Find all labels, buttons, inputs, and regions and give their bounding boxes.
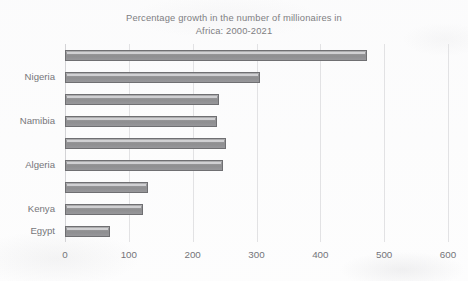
bar-row	[65, 88, 448, 110]
y-axis-tick-label: Nigeria	[25, 71, 55, 82]
bar	[65, 182, 148, 193]
y-axis-tick-label: Algeria	[25, 159, 55, 170]
bar-row	[65, 176, 448, 198]
x-axis-tick-label: 500	[376, 248, 392, 261]
bar	[65, 204, 143, 215]
y-axis-tick-label: Kenya	[28, 203, 55, 214]
gridline-600	[448, 44, 449, 242]
x-axis-tick-label: 0	[62, 248, 67, 261]
bar	[65, 94, 219, 105]
x-axis-tick-label: 300	[248, 248, 264, 261]
bar-row	[65, 44, 448, 66]
bar-row	[65, 154, 448, 176]
bar	[65, 50, 367, 61]
x-axis-tick-label: 200	[184, 248, 200, 261]
x-axis-tick-label: 400	[312, 248, 328, 261]
bar	[65, 226, 110, 237]
chart-title: Percentage growth in the number of milli…	[0, 12, 468, 37]
bar	[65, 72, 260, 83]
y-axis-tick-label: Egypt	[30, 225, 55, 236]
x-axis-tick-label: 100	[121, 248, 137, 261]
bars-layer	[65, 44, 448, 242]
y-axis-tick-label: Namibia	[20, 115, 55, 126]
bar	[65, 116, 217, 127]
plot-area	[65, 44, 448, 242]
bar-chart-figure: Percentage growth in the number of milli…	[0, 0, 468, 281]
bar	[65, 138, 226, 149]
bar-row	[65, 220, 448, 242]
x-axis-tick-label: 600	[440, 248, 456, 261]
bar-row	[65, 66, 448, 88]
bar-row	[65, 198, 448, 220]
bar	[65, 160, 223, 171]
y-axis-labels: NigeriaNamibiaAlgeriaKenyaEgypt	[0, 44, 60, 242]
bar-row	[65, 110, 448, 132]
x-axis-labels: 0100200300400500600	[65, 248, 448, 264]
bar-row	[65, 132, 448, 154]
